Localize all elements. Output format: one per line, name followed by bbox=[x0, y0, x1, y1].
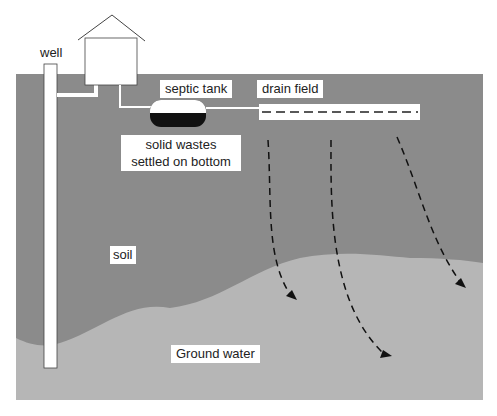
drain-field-label: drain field bbox=[257, 80, 323, 98]
well-label: well bbox=[40, 45, 62, 60]
house-icon bbox=[78, 15, 145, 85]
ground-water-label: Ground water bbox=[171, 345, 260, 363]
soil-label: soil bbox=[110, 246, 136, 264]
solid-wastes-line2: settled on bottom bbox=[126, 153, 236, 170]
septic-tank-icon bbox=[150, 100, 206, 127]
septic-tank-label: septic tank bbox=[160, 80, 232, 98]
solid-wastes-label: solid wastes settled on bottom bbox=[121, 135, 241, 171]
solid-wastes-line1: solid wastes bbox=[126, 136, 236, 153]
well-shaft bbox=[44, 64, 57, 368]
